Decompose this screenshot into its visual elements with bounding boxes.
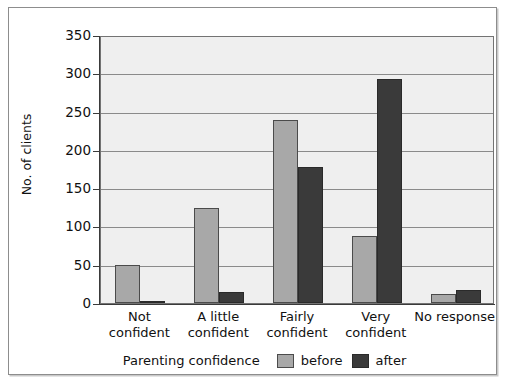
chart-legend: Parenting confidence before after <box>9 353 511 368</box>
y-axis-tick-label: 100 <box>45 220 91 234</box>
y-axis-tick-label: 150 <box>45 182 91 196</box>
y-axis-line <box>99 36 100 305</box>
y-axis-tick-label: 300 <box>45 67 91 81</box>
bar-before-1 <box>194 208 219 303</box>
bar-after-3 <box>377 79 402 303</box>
y-axis-tick <box>93 304 99 305</box>
y-axis-tick-labels: 050100150200250300350 <box>39 8 91 390</box>
y-axis-tick-label: 350 <box>45 29 91 43</box>
x-axis-tick-label-4: No response <box>402 309 507 325</box>
plot-area <box>100 36 494 304</box>
legend-swatch-before-icon <box>277 354 294 368</box>
x-axis-line <box>99 304 495 305</box>
y-axis-tick-label: 250 <box>45 106 91 120</box>
y-axis-tick-label: 200 <box>45 144 91 158</box>
y-axis-tick <box>93 36 99 37</box>
legend-entry-before[interactable]: before <box>277 353 343 368</box>
bar-before-0 <box>115 265 140 303</box>
bar-before-4 <box>431 294 456 303</box>
x-axis-tick-label-line: confident <box>323 325 428 341</box>
y-axis-tick <box>93 151 99 152</box>
y-axis-tick <box>93 74 99 75</box>
legend-title: Parenting confidence <box>123 353 260 368</box>
y-axis-tick <box>93 113 99 114</box>
legend-swatch-after-icon <box>352 354 369 368</box>
figure-border-frame: 050100150200250300350 No. of clients Not… <box>8 7 497 375</box>
bar-after-4 <box>456 290 481 303</box>
y-axis-tick <box>93 266 99 267</box>
y-axis-tick <box>93 227 99 228</box>
figure-root: 050100150200250300350 No. of clients Not… <box>0 0 511 390</box>
y-axis-tick <box>93 189 99 190</box>
bar-after-0 <box>140 301 165 303</box>
legend-label-before: before <box>301 353 343 368</box>
y-axis-title: No. of clients <box>19 95 34 215</box>
bar-after-2 <box>298 167 323 303</box>
legend-label-after: after <box>376 353 407 368</box>
y-axis-tick-label: 0 <box>45 297 91 311</box>
bar-before-2 <box>273 120 298 303</box>
bars-layer <box>101 37 493 303</box>
bar-after-1 <box>219 292 244 303</box>
bar-before-3 <box>352 236 377 303</box>
x-axis-tick-label-line: No response <box>402 309 507 325</box>
legend-entry-after[interactable]: after <box>352 353 407 368</box>
y-axis-tick-label: 50 <box>45 259 91 273</box>
